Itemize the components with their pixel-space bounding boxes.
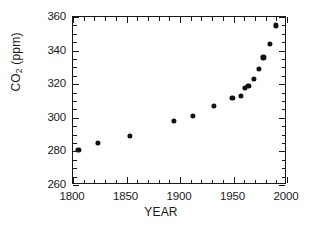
- x-axis-tick: [137, 180, 138, 184]
- x-axis-tick: [276, 17, 277, 21]
- y-tick-label: 340: [28, 44, 66, 56]
- data-point: [171, 119, 176, 124]
- y-axis-tick: [279, 118, 285, 119]
- x-axis-tick: [255, 180, 256, 184]
- y-axis-tick: [73, 185, 79, 186]
- y-tick-label: 300: [28, 111, 66, 123]
- x-axis-tick: [116, 180, 117, 184]
- y-axis-tick: [73, 67, 77, 68]
- x-axis-tick: [234, 177, 235, 183]
- data-point: [257, 66, 262, 71]
- x-tick-label: 1850: [113, 190, 138, 202]
- y-axis-tick: [279, 151, 285, 152]
- x-axis-tick: [94, 180, 95, 184]
- x-axis-tick: [191, 180, 192, 184]
- x-axis-tick: [223, 180, 224, 184]
- y-axis-tick: [282, 25, 286, 26]
- x-axis-tick: [84, 180, 85, 184]
- y-axis-title-units: (ppm): [9, 32, 23, 68]
- y-axis-tick: [279, 17, 285, 18]
- x-axis-tick: [105, 180, 106, 184]
- y-axis-tick: [282, 109, 286, 110]
- x-axis-tick: [180, 177, 181, 183]
- y-tick-label: 360: [28, 10, 66, 22]
- x-axis-tick: [84, 17, 85, 21]
- y-axis-tick: [73, 84, 79, 85]
- x-tick-label: 1950: [220, 190, 245, 202]
- x-tick-label: 1900: [167, 190, 192, 202]
- y-axis-tick: [73, 51, 79, 52]
- y-axis-tick: [73, 109, 77, 110]
- y-axis-tick: [73, 101, 77, 102]
- y-axis-tick: [282, 93, 286, 94]
- data-point: [212, 103, 217, 108]
- x-axis-title: YEAR: [0, 205, 322, 219]
- x-axis-tick: [223, 17, 224, 21]
- y-axis-tick: [73, 34, 77, 35]
- x-axis-tick: [159, 17, 160, 21]
- y-axis-tick: [73, 59, 77, 60]
- y-axis-title-subscript: 2: [14, 68, 24, 73]
- x-tick-label: 2000: [274, 190, 299, 202]
- y-tick-label: 260: [28, 178, 66, 190]
- y-tick-label: 320: [28, 77, 66, 89]
- x-axis-tick: [287, 177, 288, 183]
- y-axis-tick: [73, 17, 79, 18]
- y-axis-title: CO2 (ppm): [9, 2, 23, 122]
- y-axis-tick: [279, 51, 285, 52]
- data-point: [238, 93, 243, 98]
- y-axis-tick: [282, 177, 286, 178]
- data-point: [261, 55, 266, 60]
- y-axis-tick: [73, 177, 77, 178]
- y-axis-tick: [73, 160, 77, 161]
- x-axis-tick: [127, 17, 128, 23]
- x-axis-tick: [159, 180, 160, 184]
- data-points-layer: [73, 17, 285, 183]
- x-axis-tick: [255, 17, 256, 21]
- x-axis-tick: [266, 17, 267, 21]
- y-axis-tick: [282, 135, 286, 136]
- y-axis-tick: [279, 185, 285, 186]
- x-axis-tick: [276, 180, 277, 184]
- y-axis-tick: [282, 59, 286, 60]
- y-axis-tick: [73, 168, 77, 169]
- x-tick-label: 1800: [60, 190, 85, 202]
- y-axis-tick: [282, 34, 286, 35]
- x-axis-tick: [105, 17, 106, 21]
- y-axis-tick: [73, 143, 77, 144]
- x-axis-tick: [169, 17, 170, 21]
- x-axis-tick: [148, 17, 149, 21]
- y-axis-tick: [282, 42, 286, 43]
- y-axis-title-species: CO: [9, 73, 23, 91]
- y-axis-tick: [73, 151, 79, 152]
- x-axis-tick: [201, 180, 202, 184]
- y-axis-tick: [282, 160, 286, 161]
- data-point: [127, 134, 132, 139]
- x-axis-tick: [244, 180, 245, 184]
- y-axis-tick: [282, 126, 286, 127]
- x-axis-tick: [148, 180, 149, 184]
- x-axis-tick: [73, 177, 74, 183]
- y-tick-label: 280: [28, 144, 66, 156]
- y-axis-tick: [282, 76, 286, 77]
- x-axis-tick: [201, 17, 202, 21]
- x-axis-tick: [169, 180, 170, 184]
- y-axis-tick: [282, 101, 286, 102]
- x-axis-tick: [94, 17, 95, 21]
- data-point: [251, 77, 256, 82]
- y-axis-tick: [73, 93, 77, 94]
- x-axis-tick: [234, 17, 235, 23]
- y-axis-tick: [282, 143, 286, 144]
- x-axis-tick: [244, 17, 245, 21]
- y-axis-tick: [73, 42, 77, 43]
- data-point: [230, 95, 235, 100]
- x-axis-tick: [116, 17, 117, 21]
- co2-scatter-chart: 18001850190019502000260280300320340360 Y…: [0, 0, 322, 227]
- x-axis-tick: [266, 180, 267, 184]
- x-axis-tick: [212, 180, 213, 184]
- x-axis-tick: [127, 177, 128, 183]
- x-axis-tick: [212, 17, 213, 21]
- data-point: [267, 41, 272, 46]
- y-axis-tick: [73, 25, 77, 26]
- y-axis-tick: [73, 126, 77, 127]
